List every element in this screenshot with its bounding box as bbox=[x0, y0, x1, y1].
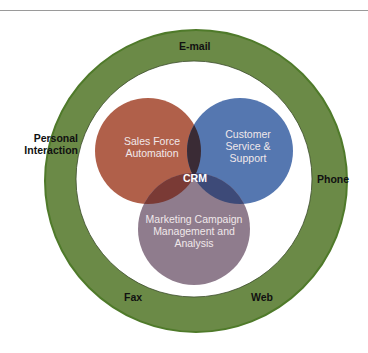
service-label-line2: Service & bbox=[208, 140, 288, 152]
channel-label-personal: Personal bbox=[2, 132, 78, 144]
customer-service-label: Customer Service & Support bbox=[208, 128, 288, 164]
channel-label-fax: Fax bbox=[124, 291, 142, 303]
channel-label-email: E-mail bbox=[179, 40, 211, 52]
marketing-label: Marketing Campaign Management and Analys… bbox=[134, 213, 254, 249]
marketing-label-line1: Marketing Campaign bbox=[134, 213, 254, 225]
channel-label-personal-interaction: Personal Interaction bbox=[2, 132, 78, 156]
marketing-label-line2: Management and bbox=[134, 225, 254, 237]
marketing-label-line3: Analysis bbox=[134, 237, 254, 249]
sales-label-line1: Sales Force bbox=[110, 135, 194, 147]
channel-label-web: Web bbox=[251, 291, 273, 303]
channel-label-interaction: Interaction bbox=[2, 144, 78, 156]
channel-label-phone: Phone bbox=[317, 173, 349, 185]
sales-label-line2: Automation bbox=[110, 147, 194, 159]
service-label-line1: Customer bbox=[208, 128, 288, 140]
crm-center-label: CRM bbox=[183, 172, 207, 184]
service-label-line3: Support bbox=[208, 152, 288, 164]
sales-force-label: Sales Force Automation bbox=[110, 135, 194, 159]
